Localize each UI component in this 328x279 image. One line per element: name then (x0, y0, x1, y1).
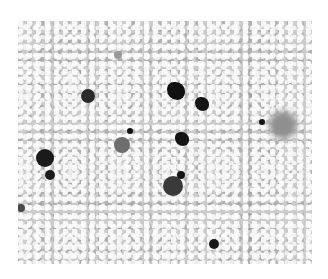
particle-gray-round (114, 137, 130, 153)
particle-irregular-black (195, 97, 209, 111)
particle-large-dark (163, 176, 183, 196)
particle-large-dark (36, 149, 54, 167)
particle-small-black (177, 171, 185, 179)
micrograph-image (18, 21, 312, 264)
particle-round-dark (81, 89, 95, 103)
particle-small-black (259, 119, 265, 125)
particle-faint-halo (269, 111, 297, 139)
particle-edge-dark (18, 204, 25, 212)
particle-small-black (209, 239, 219, 249)
particle-small-black (127, 128, 133, 134)
particle-irregular-black (167, 82, 185, 100)
particle-irregular-black (175, 132, 189, 146)
particle-faint-gray (114, 51, 122, 59)
particle-tail-dark (45, 170, 55, 180)
